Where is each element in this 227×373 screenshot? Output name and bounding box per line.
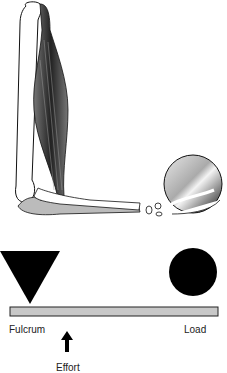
lever-diagram: [0, 248, 218, 352]
wrist-bones: [146, 203, 162, 216]
lever-illustration: [0, 0, 227, 373]
effort-label: Effort: [56, 362, 80, 373]
load-label: Load: [184, 324, 206, 335]
ball: [164, 155, 222, 214]
load-circle: [169, 248, 217, 296]
lever-bar: [10, 307, 218, 316]
fulcrum-triangle: [0, 251, 60, 304]
forearm-bones: [18, 188, 140, 215]
biceps-muscle: [34, 4, 68, 198]
effort-arrow-icon: [61, 331, 73, 352]
fulcrum-label: Fulcrum: [9, 324, 45, 335]
